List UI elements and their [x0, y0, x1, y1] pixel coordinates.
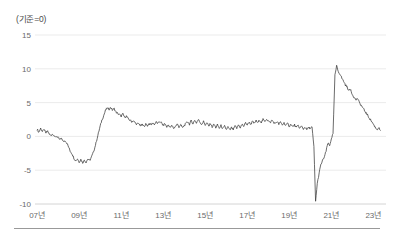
x-tick-label: 15년: [197, 210, 213, 220]
y-axis-tick-labels: 151050-5-10: [19, 31, 31, 209]
y-tick-label: 10: [22, 65, 31, 74]
x-tick-label: 17년: [239, 210, 255, 220]
chart-container: (기준=0) 151050-5-10 07년09년11년13년15년17년19년…: [0, 0, 394, 242]
y-tick-label: 5: [27, 99, 32, 108]
line-chart-plot: 151050-5-10 07년09년11년13년15년17년19년21년23년: [0, 0, 394, 242]
y-tick-label: 0: [27, 132, 32, 141]
x-tick-label: 07년: [29, 210, 45, 220]
x-tick-label: 09년: [71, 210, 87, 220]
x-tick-label: 21년: [323, 210, 339, 220]
series-line-index: [37, 65, 380, 201]
y-tick-label: 15: [22, 31, 31, 40]
x-tick-label: 19년: [281, 210, 297, 220]
x-tick-label: 23년: [365, 210, 381, 220]
y-tick-label: -5: [24, 166, 32, 175]
x-tick-label: 13년: [155, 210, 171, 220]
data-series-group: [37, 65, 380, 201]
y-tick-label: -10: [19, 200, 31, 209]
x-axis-tick-labels: 07년09년11년13년15년17년19년21년23년: [29, 210, 381, 220]
x-tick-label: 11년: [114, 210, 129, 220]
